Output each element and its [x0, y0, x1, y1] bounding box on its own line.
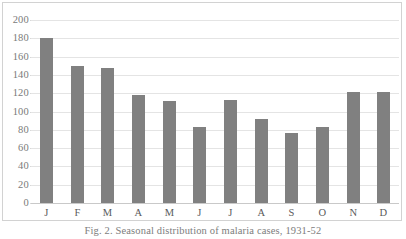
gridline-40: [31, 166, 399, 167]
chart-frame: 200180160140120100806040200 JFMAMJJASOND: [2, 2, 402, 221]
bar-S-8: [285, 133, 298, 203]
gridline-180: [31, 38, 399, 39]
x-axis-tick-label: O: [307, 206, 338, 220]
bar-A-3: [132, 95, 145, 203]
bar-J-5: [193, 127, 206, 203]
y-axis-tick-label: 100: [3, 107, 29, 118]
figure-caption: Fig. 2. Seasonal distribution of malaria…: [0, 224, 406, 237]
x-axis-tick-label: J: [184, 206, 215, 220]
x-axis-tick-label: S: [276, 206, 307, 220]
bar-A-7: [255, 119, 268, 203]
gridline-60: [31, 148, 399, 149]
x-axis-tick-label: J: [31, 206, 62, 220]
bar-J-0: [40, 38, 53, 203]
gridline-200: [31, 20, 399, 21]
gridline-0: [31, 203, 399, 204]
y-axis-tick-label: 60: [3, 143, 29, 154]
plot-area: [31, 20, 399, 203]
x-axis-tick-label: N: [338, 206, 369, 220]
bar-F-1: [71, 66, 84, 203]
bar-M-4: [163, 101, 176, 203]
y-axis-tick-label: 140: [3, 70, 29, 81]
x-axis-tick-label: A: [246, 206, 277, 220]
figure-container: 200180160140120100806040200 JFMAMJJASOND…: [0, 0, 406, 239]
gridline-120: [31, 93, 399, 94]
bar-M-2: [101, 68, 114, 203]
y-axis-tick-label: 160: [3, 52, 29, 63]
x-axis-tick-label: D: [368, 206, 399, 220]
y-axis-tick-label: 20: [3, 180, 29, 191]
y-axis-tick-label: 0: [3, 198, 29, 209]
bar-O-9: [316, 127, 329, 203]
y-axis-tick-label: 80: [3, 125, 29, 136]
x-axis-tick-label: M: [92, 206, 123, 220]
gridline-100: [31, 112, 399, 113]
x-axis-tick-label: A: [123, 206, 154, 220]
y-axis-tick-label: 180: [3, 33, 29, 44]
bar-J-6: [224, 100, 237, 203]
gridline-20: [31, 185, 399, 186]
y-axis-tick-label: 40: [3, 161, 29, 172]
gridline-140: [31, 75, 399, 76]
x-axis-labels: JFMAMJJASOND: [31, 206, 399, 222]
y-axis-tick-label: 200: [3, 15, 29, 26]
gridline-80: [31, 130, 399, 131]
x-axis-tick-label: M: [154, 206, 185, 220]
gridline-160: [31, 57, 399, 58]
bar-D-11: [377, 92, 390, 203]
x-axis-tick-label: F: [62, 206, 93, 220]
bar-N-10: [347, 92, 360, 203]
x-axis-tick-label: J: [215, 206, 246, 220]
y-axis-labels: 200180160140120100806040200: [3, 20, 29, 203]
y-axis-tick-label: 120: [3, 88, 29, 99]
